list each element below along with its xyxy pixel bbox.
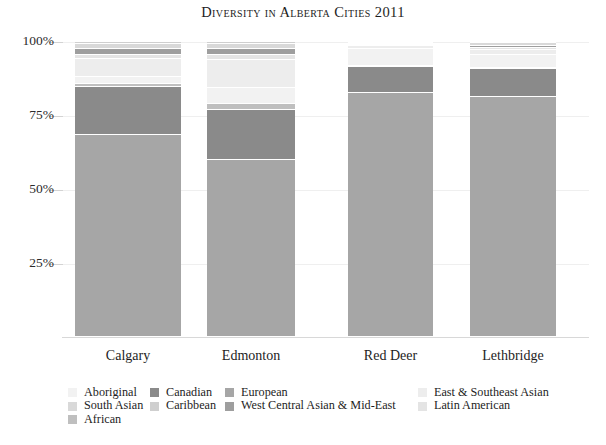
x-axis-label-red-deer: Red Deer [348, 348, 433, 364]
bar-segment [470, 48, 556, 50]
bar-segment [470, 55, 556, 68]
legend-item-label: South Asian [84, 399, 143, 412]
legend-swatch-icon [150, 402, 159, 411]
legend-item-label: East & Southeast Asian [434, 386, 549, 399]
legend-item[interactable]: Latin American [418, 399, 549, 412]
x-axis-baseline [62, 337, 589, 338]
bar-segment [470, 69, 556, 96]
bar-segment [207, 55, 295, 60]
legend-column-3: EuropeanWest Central Asian & Mid-East [225, 386, 396, 413]
bar-segment [75, 44, 181, 49]
legend-item-label: European [241, 386, 288, 399]
legend-swatch-icon [68, 402, 77, 411]
legend-item-label: Caribbean [166, 399, 216, 412]
chart-legend: AboriginalSouth AsianAfricanCanadianCari… [0, 386, 606, 434]
bar-column [75, 42, 181, 337]
x-axis-label-edmonton: Edmonton [207, 348, 295, 364]
bar-segment [207, 110, 295, 160]
legend-swatch-icon [68, 388, 77, 397]
bar-segment [348, 43, 433, 44]
legend-item[interactable]: East & Southeast Asian [418, 386, 549, 399]
legend-column-2: CanadianCaribbean [150, 386, 216, 413]
bar-segment [207, 104, 295, 110]
legend-item[interactable]: South Asian [68, 399, 143, 412]
legend-item-label: African [84, 413, 121, 426]
y-axis-label-75: 75% [29, 107, 54, 123]
bar-segment [75, 135, 181, 337]
bar-segment [470, 97, 556, 337]
legend-item[interactable]: Aboriginal [68, 386, 143, 399]
bar-segment [348, 93, 433, 337]
bar-column [348, 42, 433, 337]
plot-area: 100%75%50%25% CalgaryEdmontonRed DeerLet… [0, 0, 606, 370]
y-axis-label-25: 25% [29, 255, 54, 271]
legend-swatch-icon [418, 388, 427, 397]
y-axis-label-50: 50% [29, 181, 54, 197]
chart-root: Diversity in Alberta Cities 2011 100%75%… [0, 0, 606, 445]
x-axis-label-lethbridge: Lethbridge [470, 348, 556, 364]
bar-segment [207, 42, 295, 44]
bar-segment [348, 67, 433, 94]
bar-segment [470, 43, 556, 46]
legend-item[interactable]: West Central Asian & Mid-East [225, 399, 396, 412]
legend-item-label: Aboriginal [84, 386, 137, 399]
y-axis-label-100: 100% [23, 33, 55, 49]
legend-swatch-icon [225, 402, 234, 411]
legend-item[interactable]: Canadian [150, 386, 216, 399]
bar-segment [348, 49, 433, 66]
legend-column-4: East & Southeast AsianLatin American [418, 386, 549, 413]
x-axis-label-calgary: Calgary [75, 348, 181, 364]
bar-segment [348, 42, 433, 43]
legend-swatch-icon [150, 388, 159, 397]
bar-segment [348, 44, 433, 45]
legend-item[interactable]: Caribbean [150, 399, 216, 412]
legend-item-label: Latin American [434, 399, 510, 412]
bar-segment [75, 55, 181, 59]
bar-segment [75, 84, 181, 87]
bar-segment [75, 87, 181, 134]
bar-segment [75, 42, 181, 44]
legend-column-1: AboriginalSouth AsianAfrican [68, 386, 143, 426]
bar-column [470, 42, 556, 337]
bar-segment [207, 160, 295, 337]
bar-segment [207, 60, 295, 88]
legend-swatch-icon [225, 388, 234, 397]
legend-item[interactable]: African [68, 413, 143, 426]
legend-swatch-icon [68, 415, 77, 424]
bar-segment [207, 88, 295, 104]
bar-segment [207, 49, 295, 55]
legend-item-label: Canadian [166, 386, 212, 399]
bar-segment [207, 44, 295, 49]
bar-segment [470, 42, 556, 43]
bar-segment [348, 45, 433, 46]
legend-item-label: West Central Asian & Mid-East [241, 399, 396, 412]
bar-segment [75, 77, 181, 84]
bar-segment [75, 49, 181, 55]
bar-segment [470, 68, 556, 69]
legend-item[interactable]: European [225, 386, 396, 399]
bar-segment [348, 46, 433, 49]
legend-swatch-icon [418, 402, 427, 411]
bar-segment [470, 50, 556, 55]
bar-segment [75, 59, 181, 77]
bar-segment [470, 46, 556, 48]
bar-column [207, 42, 295, 337]
